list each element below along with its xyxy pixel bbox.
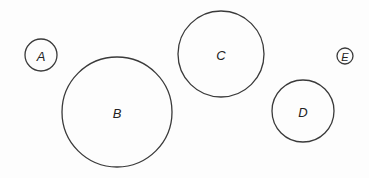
- circle-b: B: [62, 57, 172, 167]
- circle-a-label: A: [36, 49, 46, 64]
- circle-e-label: E: [341, 51, 349, 63]
- circle-d: D: [272, 80, 334, 142]
- circle-c: C: [178, 11, 264, 97]
- circle-a: A: [25, 39, 57, 71]
- circle-e: E: [337, 48, 353, 64]
- diagram-canvas: A B C D E: [0, 0, 369, 178]
- circle-d-label: D: [298, 105, 307, 120]
- circle-b-label: B: [113, 106, 122, 121]
- circle-c-label: C: [216, 48, 226, 63]
- circles-diagram: A B C D E: [0, 0, 369, 178]
